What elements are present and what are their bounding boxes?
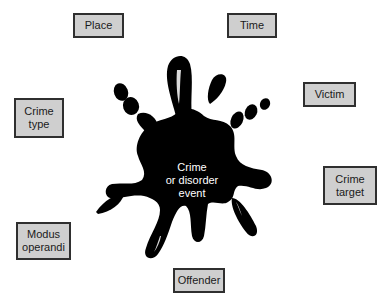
node-modus-operandi: Modus operandi (16, 222, 71, 260)
node-crime-type-line-1: Crime (24, 105, 53, 118)
node-place-label: Place (85, 19, 113, 32)
node-place: Place (73, 13, 124, 38)
node-crime-type-line-2: type (29, 118, 50, 131)
node-crime-target-line-1: Crime (335, 173, 364, 186)
node-crime-type: Crime type (14, 98, 64, 138)
node-modus-operandi-line-1: Modus (27, 228, 60, 241)
node-victim-label: Victim (315, 88, 345, 101)
node-offender: Offender (173, 268, 225, 293)
node-crime-target: Crime target (323, 166, 377, 205)
node-crime-target-line-2: target (336, 186, 364, 199)
center-label-line-3: event (150, 187, 234, 200)
node-time: Time (227, 13, 277, 38)
center-label-line-2: or disorder (150, 174, 234, 187)
center-label-line-1: Crime (150, 161, 234, 174)
node-modus-operandi-line-2: operandi (22, 241, 65, 254)
node-offender-label: Offender (178, 274, 221, 287)
node-time-label: Time (240, 19, 264, 32)
node-victim: Victim (303, 82, 356, 107)
center-event-label: Crime or disorder event (150, 161, 234, 200)
